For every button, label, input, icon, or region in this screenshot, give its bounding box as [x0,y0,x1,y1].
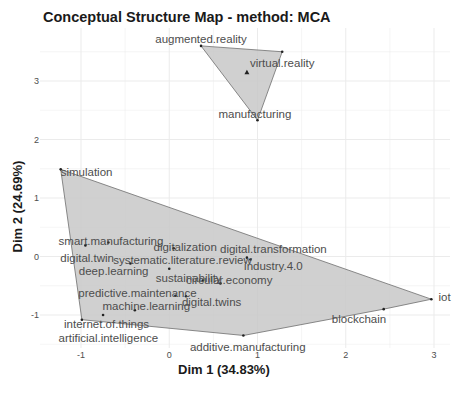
point-label: virtual.reality [250,57,315,69]
y-axis-label: Dim 2 (24.69%) [10,152,25,262]
point-label: artificial.intelligence [58,332,158,344]
point-label: digital.twin [60,252,114,264]
point-label: simulation [61,166,113,178]
data-point [200,45,203,48]
x-tick-label: 3 [431,350,436,360]
point-label: digital.twins [182,296,242,308]
point-label: iot [439,291,452,303]
data-point [102,314,105,317]
point-label: industry.4.0 [244,260,303,272]
x-tick-label: -1 [77,350,85,360]
data-point [242,334,245,337]
conceptual-structure-map: Conceptual Structure Map - method: MCA a… [0,0,463,393]
point-label: internet.of.things [64,318,149,330]
point-label: machine.learning [103,300,191,312]
x-tick-label: 1 [255,350,260,360]
x-tick-label: 0 [167,350,172,360]
y-tick-label: 3 [34,76,39,86]
y-tick-label: 2 [34,135,39,145]
y-tick-label: -1 [31,310,39,320]
x-axis-ticks: -10123 [77,350,437,360]
point-label: predictive.maintenance [78,287,196,299]
data-point [281,50,284,53]
point-label: digitalization [153,241,216,253]
data-point [382,308,385,311]
point-label: manufacturing [218,108,291,120]
point-label: digital.transformation [220,243,327,255]
point-label: circular.economy [186,274,273,286]
point-label: smart.manufacturing [59,235,164,247]
point-label: augmented.reality [155,33,247,45]
x-tick-label: 2 [343,350,348,360]
point-label: additive.manufacturing [190,341,306,353]
data-point [430,298,433,301]
y-tick-label: 1 [34,193,39,203]
x-axis-label: Dim 1 (34.83%) [178,362,270,377]
plot-area: augmented.realityvirtual.realitymanufact… [0,0,463,393]
y-tick-label: 0 [34,252,39,262]
point-label: deep.learning [79,265,149,277]
y-axis-ticks: -10123 [31,76,39,320]
point-label: blockchain [332,313,386,325]
data-point [168,267,171,270]
